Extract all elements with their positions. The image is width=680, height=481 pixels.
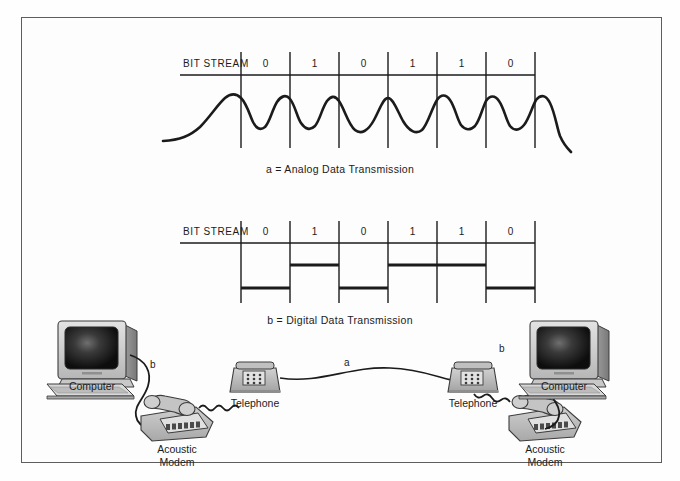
analog-caption: a = Analog Data Transmission xyxy=(0,163,680,175)
digital-caption: b = Digital Data Transmission xyxy=(0,314,680,326)
analog-bit-2: 0 xyxy=(339,58,388,69)
digital-bit-stream-label: BIT STREAM xyxy=(183,226,249,237)
left-telephone-label: Telephone xyxy=(205,397,305,410)
left-modem-graphic xyxy=(141,395,213,441)
left-modem-label-line2: Modem xyxy=(127,456,227,469)
analog-bit-4: 1 xyxy=(437,58,486,69)
digital-bit-0: 0 xyxy=(241,226,290,237)
right-modem-label-line2: Modem xyxy=(495,456,595,469)
digital-bit-5: 0 xyxy=(486,226,535,237)
right-telephone-graphic xyxy=(448,362,498,393)
digital-bit-3: 1 xyxy=(388,226,437,237)
analog-bit-stream-label: BIT STREAM xyxy=(183,58,249,69)
analog-trunk-line xyxy=(280,368,452,380)
digital-bit-1: 1 xyxy=(290,226,339,237)
analog-bit-5: 0 xyxy=(486,58,535,69)
analog-link-label: a xyxy=(344,357,350,368)
digital-bit-2: 0 xyxy=(339,226,388,237)
right-computer-label: Computer xyxy=(514,380,614,393)
analog-bit-1: 1 xyxy=(290,58,339,69)
transmission-figure: BIT STREAM 0 1 0 1 1 0 a = Analog Data T… xyxy=(0,0,680,481)
right-digital-link-label: b xyxy=(499,343,505,354)
diagram-canvas xyxy=(0,0,680,481)
right-modem-label-line1: Acoustic xyxy=(495,443,595,456)
left-computer-label: Computer xyxy=(42,380,142,393)
right-telephone-label: Telephone xyxy=(423,397,523,410)
left-digital-link-label: b xyxy=(150,359,156,370)
left-telephone-graphic xyxy=(230,362,280,393)
analog-bit-3: 1 xyxy=(388,58,437,69)
left-modem-label-line1: Acoustic xyxy=(127,443,227,456)
digital-bit-4: 1 xyxy=(437,226,486,237)
analog-bit-0: 0 xyxy=(241,58,290,69)
